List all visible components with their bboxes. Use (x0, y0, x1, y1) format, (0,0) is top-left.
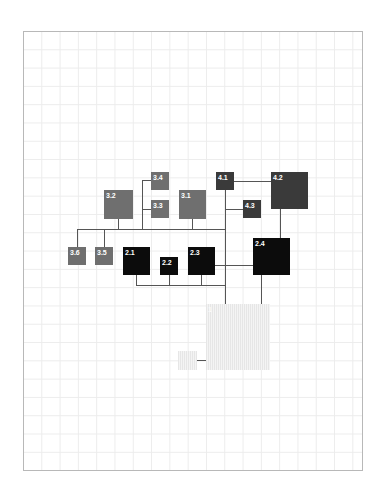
connector-4.2-2.4 (280, 209, 281, 238)
node-label: 2.3 (190, 249, 200, 257)
node-3.2[interactable]: 3.2 (104, 190, 133, 219)
node-2.3[interactable]: 2.3 (188, 247, 215, 275)
node-label: 3.1 (181, 192, 191, 200)
node-4.1[interactable]: 4.1 (216, 172, 234, 190)
node-label: 4.3 (245, 202, 255, 210)
node-2.2[interactable]: 2.2 (160, 257, 178, 275)
node-label: 3.6 (70, 249, 80, 257)
node-label: 3.2 (106, 192, 116, 200)
connector-bus-level2 (136, 285, 226, 286)
connector-3.3-3.4-trunk (142, 180, 143, 229)
connector-1-1b (197, 360, 206, 361)
connector-2.3-2.4 (215, 265, 253, 266)
connector-3.1 (192, 219, 193, 229)
node-label: 3.3 (153, 202, 163, 210)
connector-spine (225, 190, 226, 304)
node-3.5[interactable]: 3.5 (95, 247, 113, 265)
connector-2.1 (136, 275, 137, 285)
node-2.1[interactable]: 2.1 (123, 247, 150, 275)
connector-3.5 (104, 229, 105, 247)
connector-3.3 (142, 209, 151, 210)
node-label: 4.1 (218, 174, 228, 182)
node-label: 1 (208, 306, 212, 314)
node-1[interactable]: 1 (206, 304, 270, 370)
node-label: 2.1 (125, 249, 135, 257)
connector-3.4 (142, 180, 151, 181)
node-4.3[interactable]: 4.3 (243, 200, 261, 218)
connector-2.4-1 (261, 275, 262, 304)
connector-3.2 (118, 219, 119, 229)
connector-4.1-4.2 (234, 181, 271, 182)
connector-bus-level3 (77, 229, 226, 230)
node-label: 2.4 (255, 240, 265, 248)
node-label: 4.2 (273, 174, 283, 182)
connector-2.2 (169, 275, 170, 285)
connector-4.3 (225, 209, 243, 210)
node-3.1[interactable]: 3.1 (179, 190, 206, 219)
connector-2.3 (201, 275, 202, 285)
node-label: 3.5 (97, 249, 107, 257)
node-2.4[interactable]: 2.4 (253, 238, 290, 275)
node-3.6[interactable]: 3.6 (68, 247, 86, 265)
node-3.3[interactable]: 3.3 (151, 200, 169, 218)
node-1-small[interactable] (178, 351, 197, 370)
node-label: 2.2 (162, 259, 172, 267)
node-3.4[interactable]: 3.4 (151, 172, 169, 190)
node-label: 3.4 (153, 174, 163, 182)
node-4.2[interactable]: 4.2 (271, 172, 308, 209)
connector-3.6 (77, 229, 78, 247)
